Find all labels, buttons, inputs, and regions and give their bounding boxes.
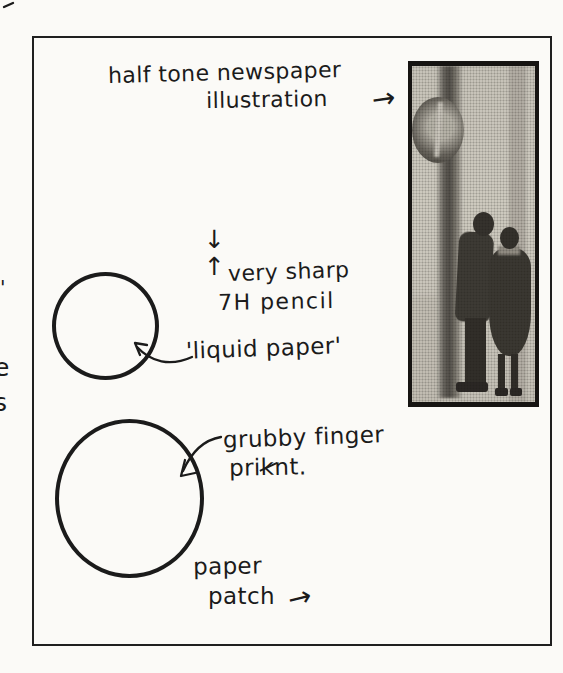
- halftone-label-line1: half tone newspaper: [108, 59, 342, 87]
- finger-print-label-line2: priknt.: [229, 455, 307, 479]
- finger-print-word-pre: pri: [229, 454, 261, 481]
- pencil-label-line2: 7H pencil: [218, 290, 335, 314]
- finger-print-label-line1: grubby finger: [223, 423, 385, 452]
- margin-fragment-mark: ': [0, 277, 6, 297]
- margin-fragment-letter: s: [0, 390, 7, 415]
- paper-patch-circle: [55, 419, 204, 578]
- finger-print-word-post: nt.: [274, 453, 307, 480]
- scanned-page: half tone newspaper illustration → ↓ ↑ v…: [0, 0, 563, 673]
- paper-patch-label-line2: patch: [208, 585, 275, 608]
- paper-patch-label-line1: paper: [193, 554, 262, 578]
- pencil-label-line1: very sharp: [228, 259, 350, 285]
- halftone-dot-overlay: [412, 66, 535, 402]
- right-arrow-icon: →: [370, 83, 398, 114]
- halftone-photo: [408, 61, 539, 407]
- down-arrow-icon: ↓: [204, 227, 225, 252]
- struck-letter: k: [260, 456, 274, 479]
- up-arrow-icon: ↑: [204, 254, 225, 279]
- scan-tick-mark: [4, 3, 13, 7]
- halftone-label-line2: illustration: [206, 88, 328, 112]
- liquid-paper-circle: [52, 272, 159, 380]
- photo-scene: [412, 66, 535, 402]
- margin-fragment-letter: e: [0, 355, 10, 380]
- liquid-paper-label: 'liquid paper': [186, 334, 342, 362]
